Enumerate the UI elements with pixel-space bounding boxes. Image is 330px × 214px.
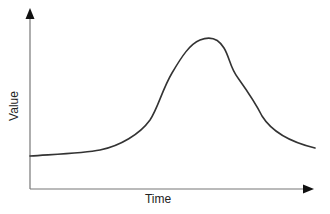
data-curve (30, 38, 315, 156)
y-axis-label: Value (7, 91, 21, 121)
x-axis-label: Time (145, 192, 171, 206)
chart-canvas (0, 0, 330, 214)
y-axis-arrow-icon (26, 8, 35, 19)
x-axis-arrow-icon (303, 185, 314, 194)
